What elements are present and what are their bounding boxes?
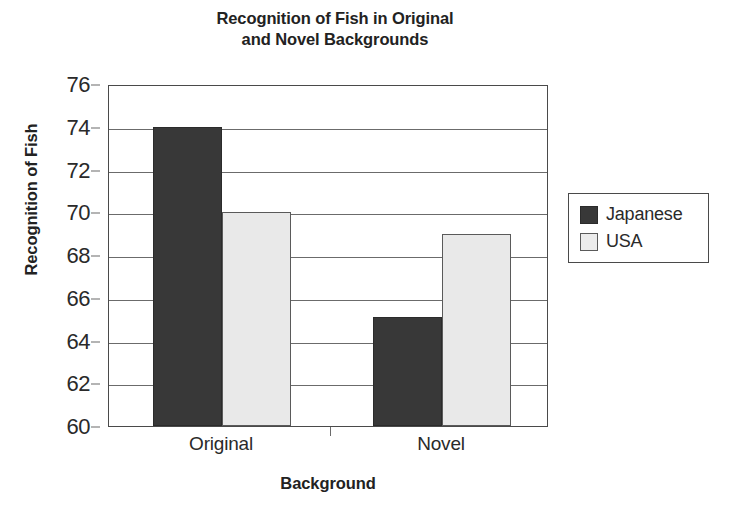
y-tick-label: 72 bbox=[67, 158, 90, 184]
x-tick-label-novel: Novel bbox=[417, 433, 465, 455]
x-axis-tick-labels: OriginalNovel bbox=[108, 433, 548, 467]
bar-japanese-original[interactable] bbox=[153, 127, 222, 426]
chart-title-line-1: Recognition of Fish in Original bbox=[140, 8, 530, 29]
plot-area bbox=[108, 85, 548, 427]
x-axis-title: Background bbox=[108, 474, 548, 493]
chart-title: Recognition of Fish in Original and Nove… bbox=[140, 8, 530, 50]
y-tick-label: 60 bbox=[67, 414, 90, 440]
y-axis-title: Recognition of Fish bbox=[22, 85, 41, 315]
y-tick-label: 66 bbox=[67, 286, 90, 312]
bar-chart-figure: Recognition of Fish in Original and Nove… bbox=[0, 0, 744, 521]
y-tick-mark bbox=[91, 298, 100, 299]
x-tick-label-original: Original bbox=[189, 433, 253, 455]
y-tick-mark bbox=[91, 427, 100, 428]
y-tick-mark bbox=[91, 170, 100, 171]
chart-title-line-2: and Novel Backgrounds bbox=[140, 29, 530, 50]
legend-label-japanese: Japanese bbox=[606, 204, 682, 225]
y-tick-label: 64 bbox=[67, 329, 90, 355]
legend: Japanese USA bbox=[568, 193, 709, 263]
y-tick-label: 76 bbox=[67, 72, 90, 98]
legend-swatch-usa-icon bbox=[580, 233, 598, 251]
bar-usa-original[interactable] bbox=[222, 212, 291, 426]
y-tick-mark bbox=[91, 127, 100, 128]
legend-item-japanese[interactable]: Japanese bbox=[580, 201, 708, 228]
y-tick-label: 74 bbox=[67, 115, 90, 141]
legend-swatch-japanese-icon bbox=[580, 206, 598, 224]
legend-label-usa: USA bbox=[606, 231, 642, 252]
y-tick-label: 62 bbox=[67, 371, 90, 397]
y-tick-mark bbox=[91, 384, 100, 385]
y-tick-label: 70 bbox=[67, 200, 90, 226]
y-tick-mark bbox=[91, 256, 100, 257]
y-tick-mark bbox=[91, 85, 100, 86]
legend-item-usa[interactable]: USA bbox=[580, 228, 708, 255]
y-tick-label: 68 bbox=[67, 243, 90, 269]
bar-japanese-novel[interactable] bbox=[373, 317, 442, 426]
y-tick-mark bbox=[91, 213, 100, 214]
y-axis-tick-labels: 606264666870727476 bbox=[40, 85, 100, 427]
bar-usa-novel[interactable] bbox=[442, 234, 511, 426]
y-tick-mark bbox=[91, 341, 100, 342]
